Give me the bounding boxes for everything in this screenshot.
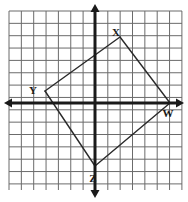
vertex-label-w: W xyxy=(163,107,174,119)
x-axis-arrow-left xyxy=(4,99,12,108)
x-axis-arrow-right xyxy=(176,99,184,108)
shape-edge-yx xyxy=(45,37,120,91)
vertex-label-z: Z xyxy=(89,172,96,184)
vertex-label-x: X xyxy=(112,26,120,38)
y-axis-arrow-up xyxy=(91,4,100,12)
vertex-label-y: Y xyxy=(29,84,37,96)
coordinate-grid-figure: XWZY xyxy=(0,0,188,202)
y-axis-arrow-down xyxy=(91,190,100,198)
coordinate-plane-svg: XWZY xyxy=(0,0,188,202)
